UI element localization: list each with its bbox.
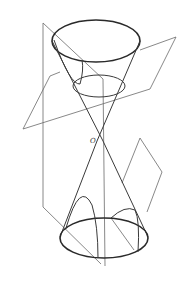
top-ellipse [52,20,140,62]
apex-label: O [90,137,96,145]
parabola-section [111,209,139,252]
lower-hyperbola-branch [66,196,98,258]
lower-left-generator [60,141,97,237]
horizontal-plane [23,37,176,129]
double-cone-diagram: O [0,0,192,286]
circle-section [73,75,125,97]
oblique-plane [111,138,162,250]
lower-right-generator [103,141,148,237]
bottom-ellipse [60,218,148,258]
